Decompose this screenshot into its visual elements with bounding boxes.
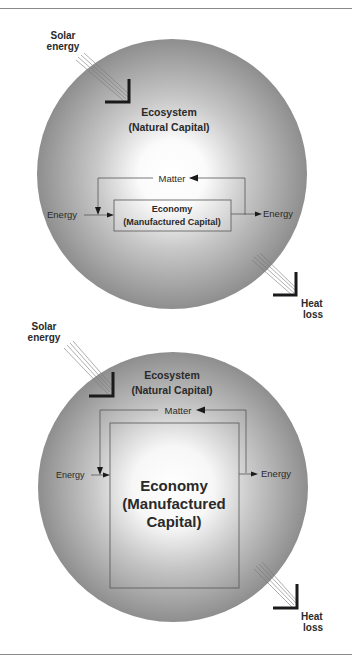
matter-label: Matter [159, 173, 186, 184]
energy-out-label: Energy [263, 208, 293, 219]
diagram-canvas: Solar energy Ecosystem (Natural Capital)… [0, 0, 352, 665]
energy-out-label: Energy [261, 468, 291, 479]
heat-label-2: loss [303, 622, 323, 633]
ecosystem-title: Ecosystem [144, 369, 199, 381]
diagram-large-economy: Solar energy Ecosystem (Natural Capital)… [28, 321, 324, 633]
heat-label-2: loss [303, 309, 323, 320]
diagram-small-economy: Solar energy Ecosystem (Natural Capital)… [37, 30, 323, 320]
solar-label-2: energy [47, 41, 80, 52]
energy-in-label: Energy [56, 470, 85, 480]
economy-title: Economy [140, 477, 208, 494]
energy-in-label: Energy [47, 209, 77, 220]
ecosystem-title: Ecosystem [141, 106, 196, 118]
ecosystem-subtitle: (Natural Capital) [128, 121, 209, 133]
economy-subtitle: (Manufactured Capital) [123, 217, 221, 227]
heat-label: Heat [301, 298, 323, 309]
economy-title: Economy [152, 204, 193, 214]
solar-label: Solar [50, 30, 75, 41]
heat-label: Heat [301, 611, 323, 622]
economy-subtitle-2: Capital) [146, 513, 201, 530]
ecosystem-subtitle: (Natural Capital) [131, 384, 212, 396]
matter-label: Matter [165, 405, 192, 416]
economy-subtitle: (Manufactured [122, 495, 225, 512]
solar-label: Solar [31, 321, 56, 332]
solar-label-2: energy [28, 332, 61, 343]
